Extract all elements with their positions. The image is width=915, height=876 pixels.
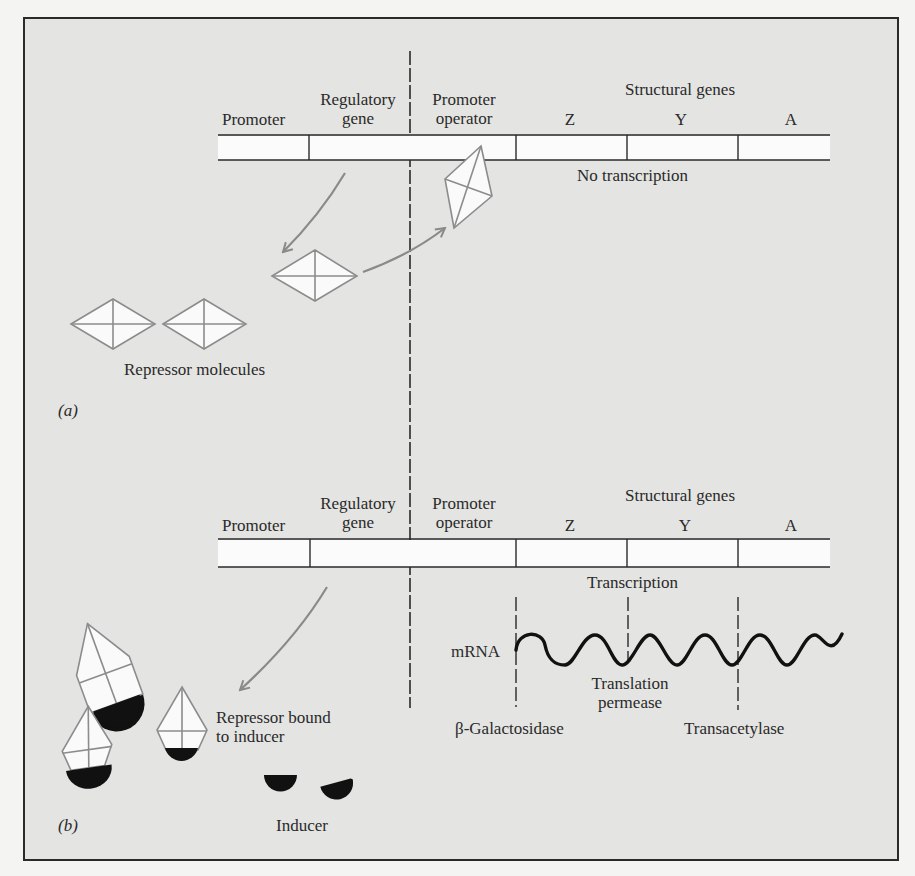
arrow-gene-to-repressor [283, 173, 345, 252]
gene-z-label-b: Z [555, 516, 585, 535]
transacetylase-label: Transacetylase [684, 719, 784, 738]
gene-y-label-b: Y [670, 516, 700, 535]
promoter-label-a: Promoter [222, 110, 285, 129]
inducer-icon [320, 778, 355, 801]
repressor-molecule-icon [272, 250, 357, 301]
repressor-molecule-icon [71, 299, 155, 349]
translation-permease-label: Translation permease [575, 674, 685, 712]
mrna-label: mRNA [451, 642, 500, 661]
no-transcription-label: No transcription [560, 166, 705, 185]
inducer-label: Inducer [276, 816, 328, 835]
promoter-operator-label-a: Promoter operator [418, 90, 510, 128]
panel-a-label: (a) [58, 401, 78, 420]
gene-bar-b [218, 539, 830, 567]
repressor-molecule-icon [163, 299, 246, 349]
inducer-icon [264, 775, 297, 792]
repressor-bound-label: Repressor bound to inducer [216, 708, 331, 746]
transcription-label: Transcription [570, 573, 695, 592]
gene-a-label-a: A [776, 110, 806, 129]
structural-genes-label-a: Structural genes [590, 80, 770, 99]
regulatory-gene-label-a: Regulatory gene [309, 90, 407, 128]
promoter-label-b: Promoter [222, 516, 285, 535]
panel-b-label: (b) [58, 816, 78, 835]
structural-genes-label-b: Structural genes [590, 486, 770, 505]
lac-operon-diagram [0, 0, 915, 876]
regulatory-gene-label-b: Regulatory gene [309, 494, 407, 532]
bound-repressor-icon [157, 687, 207, 761]
gene-z-label-a: Z [555, 110, 585, 129]
repressor-molecules-label: Repressor molecules [124, 360, 265, 379]
mrna-wave [516, 634, 842, 665]
beta-galactosidase-label: β-Galactosidase [455, 719, 564, 738]
arrow-repressor-to-operator [363, 228, 445, 272]
gene-y-label-a: Y [666, 110, 696, 129]
promoter-operator-label-b: Promoter operator [418, 494, 510, 532]
arrow-gene-to-bound-repressor [240, 587, 327, 690]
gene-a-label-b: A [776, 516, 806, 535]
bound-repressor-icon [61, 614, 152, 739]
gene-bar-a [218, 135, 830, 160]
